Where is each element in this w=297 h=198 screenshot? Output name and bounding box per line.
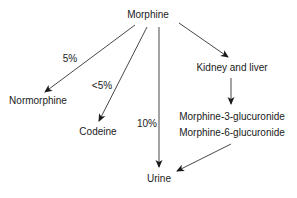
node-normorphine: Normorphine [9,95,67,107]
arrow-morphine-to-kidney-liver [179,23,228,57]
edge-label-urine: 10% [137,118,157,130]
node-morphine-6-glucuronide: Morphine-6-glucuronide [179,127,285,139]
node-codeine: Codeine [79,126,116,138]
edge-label-normorphine: 5% [63,53,77,65]
arrow-morphine-to-codeine [99,27,147,121]
arrow-morphine-to-normorphine [45,25,135,92]
node-morphine-3-glucuronide: Morphine-3-glucuronide [179,111,285,123]
node-morphine: Morphine [127,9,169,21]
node-urine: Urine [147,173,171,185]
edge-label-codeine: <5% [92,80,112,92]
node-kidney-liver: Kidney and liver [196,62,267,74]
arrow-glucuronides-to-urine [177,144,231,171]
